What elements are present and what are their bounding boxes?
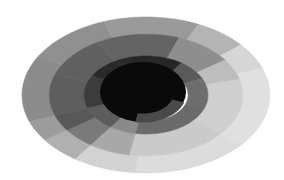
- sunburst-diagram: [0, 0, 284, 180]
- ring-1-segment: [184, 79, 208, 109]
